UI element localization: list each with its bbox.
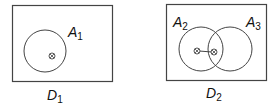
set-a2-label: A2 <box>172 14 188 32</box>
point-marker-icon <box>49 53 55 59</box>
diagram-canvas: A1 D1 A2 A3 D2 <box>0 0 277 109</box>
set-a1-label: A1 <box>67 24 83 42</box>
point-marker-icon <box>211 49 217 55</box>
connector-line <box>199 51 212 52</box>
panel-d2: A2 A3 D2 <box>167 5 267 104</box>
set-a3-label: A3 <box>245 14 261 32</box>
point-marker-icon <box>194 48 200 54</box>
panel-d1: A1 D1 <box>13 6 113 106</box>
set-a2-circle <box>179 27 223 71</box>
domain-d1-label: D1 <box>47 87 63 105</box>
domain-d2-label: D2 <box>206 85 222 103</box>
set-a1-circle <box>24 30 66 72</box>
domain-d1-box <box>13 6 113 82</box>
